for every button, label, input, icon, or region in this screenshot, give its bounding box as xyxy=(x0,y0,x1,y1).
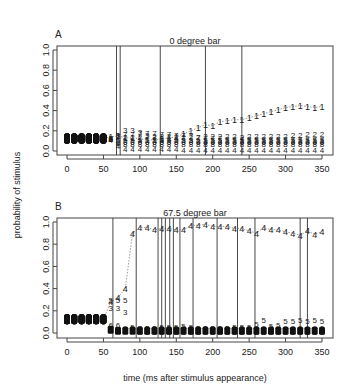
data-point: 8 xyxy=(145,140,150,149)
data-point: 8 xyxy=(196,140,201,149)
data-point: 4 xyxy=(145,223,150,233)
data-point: 7 xyxy=(159,130,164,139)
data-point: 4 xyxy=(247,226,252,236)
x-tick-label: 300 xyxy=(278,164,293,174)
data-point: 5 xyxy=(116,296,121,305)
data-point: 5 xyxy=(108,296,113,305)
data-point: 1 xyxy=(261,109,266,119)
data-point: 1 xyxy=(276,105,281,115)
data-point: 7 xyxy=(145,129,150,138)
panel-letter: A xyxy=(55,29,62,40)
x-tick-label: 300 xyxy=(278,347,293,357)
data-point: 4 xyxy=(268,225,273,235)
data-point: 7 xyxy=(174,131,179,140)
data-point: 8 xyxy=(203,140,208,149)
data-point: 3 xyxy=(123,308,128,317)
data-point: 1 xyxy=(210,121,215,131)
data-point: 5 xyxy=(123,296,128,305)
data-point: 1 xyxy=(247,113,252,123)
data-point: 1 xyxy=(225,116,230,126)
y-tick-label: 0.6 xyxy=(41,260,51,273)
data-point: 3 xyxy=(108,304,113,313)
data-point: 4 xyxy=(152,225,157,235)
data-point: 4 xyxy=(290,229,295,239)
panel-letter: B xyxy=(55,201,62,212)
x-tick-label: 0 xyxy=(64,164,69,174)
data-point: 8 xyxy=(225,140,230,149)
y-tick-label: 0.4 xyxy=(41,104,51,117)
y-tick-label: 0.2 xyxy=(41,125,51,138)
data-point: 7 xyxy=(130,130,135,139)
data-point: 4 xyxy=(225,222,230,232)
data-point: 4 xyxy=(130,229,135,239)
data-point: 7 xyxy=(181,131,186,140)
y-tick-label: 0.4 xyxy=(41,282,51,295)
data-point: 8 xyxy=(276,140,281,149)
data-point: 1 xyxy=(232,115,237,125)
y-tick-label: 0.8 xyxy=(41,238,51,251)
data-point: 8 xyxy=(247,140,252,149)
y-tick-label: 0.6 xyxy=(41,84,51,97)
data-point: 8 xyxy=(116,139,121,148)
panel-title: 67.5 degree bar xyxy=(163,208,227,218)
data-point: 8 xyxy=(152,140,157,149)
data-point: 7 xyxy=(138,129,143,138)
data-point: 4 xyxy=(181,225,186,235)
x-tick-label: 200 xyxy=(205,347,220,357)
data-point: 8 xyxy=(181,140,186,149)
data-point: 1 xyxy=(305,102,310,112)
data-point: 8 xyxy=(291,140,296,149)
data-point: 7 xyxy=(123,130,128,139)
data-point: 4 xyxy=(305,226,310,236)
x-tick-label: 100 xyxy=(132,347,147,357)
data-point: 8 xyxy=(138,140,143,149)
data-point: 8 xyxy=(305,140,310,149)
data-point: 8 xyxy=(108,135,113,144)
data-point: 1 xyxy=(290,102,295,112)
y-tick-label: 1.0 xyxy=(41,216,51,229)
y-tick-label: 0.0 xyxy=(41,145,51,158)
data-point: 8 xyxy=(312,140,317,149)
x-tick-label: 150 xyxy=(169,347,184,357)
data-point: 1 xyxy=(217,117,222,127)
data-point: 4 xyxy=(298,231,303,241)
y-tick-label: 0.2 xyxy=(41,305,51,318)
data-point: 8 xyxy=(130,140,135,149)
data-point: 1 xyxy=(239,115,244,125)
data-point: 8 xyxy=(261,140,266,149)
data-point: 4 xyxy=(319,227,324,237)
data-point: 1 xyxy=(203,120,208,130)
data-point: 8 xyxy=(174,140,179,149)
y-tick-label: 0.8 xyxy=(41,64,51,77)
data-point: 4 xyxy=(283,227,288,237)
data-point: 8 xyxy=(283,140,288,149)
data-point: 4 xyxy=(137,223,142,233)
x-tick-label: 150 xyxy=(169,164,184,174)
panel-title: 0 degree bar xyxy=(169,36,220,46)
data-point: 4 xyxy=(188,221,193,231)
x-tick-label: 200 xyxy=(205,164,220,174)
figure: A0 degree bar0.00.20.40.60.81.0050100150… xyxy=(0,0,351,390)
data-point: 1 xyxy=(312,103,317,113)
data-point: 8 xyxy=(123,140,128,149)
data-point: 4 xyxy=(166,224,171,234)
data-point: 4 xyxy=(254,229,259,239)
data-point: 4 xyxy=(239,224,244,234)
x-tick-label: 250 xyxy=(242,347,257,357)
data-point: 8 xyxy=(232,140,237,149)
x-tick-label: 100 xyxy=(132,164,147,174)
data-point: 7 xyxy=(167,130,172,139)
data-point: 1 xyxy=(298,101,303,111)
x-tick-label: 50 xyxy=(98,164,108,174)
data-point: 8 xyxy=(167,140,172,149)
data-point: 4 xyxy=(203,220,208,230)
data-point: 8 xyxy=(254,140,259,149)
data-point: 4 xyxy=(196,221,201,231)
data-point: 4 xyxy=(217,222,222,232)
data-point: 1 xyxy=(319,102,324,112)
data-point: 1 xyxy=(254,111,259,121)
data-point: 8 xyxy=(298,140,303,149)
data-point: 8 xyxy=(269,140,274,149)
x-tick-label: 250 xyxy=(242,164,257,174)
data-point: 4 xyxy=(174,225,179,235)
